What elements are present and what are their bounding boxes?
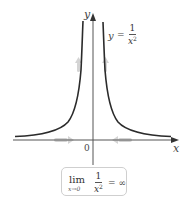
fraction-denominator: x2 [128,35,137,46]
function-label: y = 1 x2 [108,24,148,48]
fraction-numerator: 1 [129,24,137,35]
function-label-lhs: y [108,31,114,41]
limit-annotation-box: lim x→0 1 x2 = ∞ [61,167,127,196]
limit-fraction-denominator: x2 [94,183,103,194]
limit-result: = ∞ [108,178,126,188]
origin-label: 0 [84,144,90,153]
x-axis-label: x [173,143,179,154]
lim-text: lim [69,174,85,185]
y-axis-label: y [84,9,90,20]
function-label-eq: = [117,31,125,40]
lim-subscript: x→0 [68,185,80,192]
curve-left-branch [15,21,83,137]
limit-fraction-numerator: 1 [95,172,103,183]
function-label-fraction: 1 x2 [128,24,137,46]
y-axis-arrowhead [90,13,96,21]
limit-fraction: 1 x2 [94,172,103,194]
